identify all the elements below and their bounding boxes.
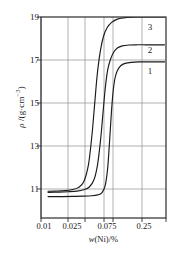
y-tick-19: 19 xyxy=(19,13,39,22)
y-tick-11: 11 xyxy=(19,185,39,194)
x-tick-0.01: 0.01 xyxy=(37,221,52,232)
y-tick-13: 13 xyxy=(19,142,39,151)
x-axis-label: w(Ni)/% xyxy=(41,234,166,245)
curve-label-1: 1 xyxy=(145,67,155,76)
x-axis-tick-labels: 0.01 0.025 0.075 0.25 xyxy=(0,221,176,233)
x-tick-0.25: 0.25 xyxy=(137,221,152,232)
density-vs-nickel-chart: ρ /(g·cm−3) 19 17 15 13 11 xyxy=(0,0,176,266)
curve-label-2: 2 xyxy=(145,46,155,55)
y-tick-15: 15 xyxy=(19,99,39,108)
x-tick-0.025: 0.025 xyxy=(62,221,81,232)
y-tick-17: 17 xyxy=(19,56,39,65)
curve-label-3: 3 xyxy=(145,23,155,32)
x-axis-label-rest: (Ni)/% xyxy=(95,234,119,244)
x-tick-0.075: 0.075 xyxy=(97,221,116,232)
